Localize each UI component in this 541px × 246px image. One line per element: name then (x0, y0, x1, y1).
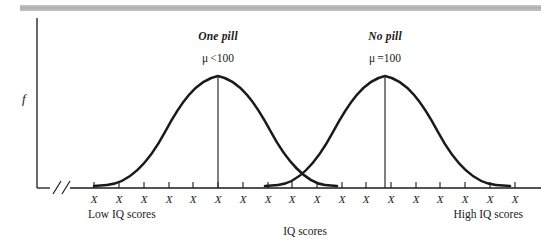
x-tick-label: X (462, 194, 469, 205)
x-tick-label: X (190, 194, 197, 205)
y-axis-label: f (22, 92, 26, 105)
curve-title-one-pill: One pill (198, 31, 238, 43)
x-tick-label: X (388, 194, 395, 205)
x-axis-title: IQ scores (283, 226, 327, 238)
x-tick-label: X (215, 194, 222, 205)
x-axis-high-label: High IQ scores (453, 209, 523, 221)
x-tick-label: X (166, 194, 173, 205)
x-tick-label: X (265, 194, 272, 205)
x-tick-label: X (240, 194, 247, 205)
x-tick-label: X (91, 194, 98, 205)
curve-title-no-pill: No pill (368, 31, 402, 43)
axis-break-mark (53, 181, 61, 194)
x-tick-label: X (437, 194, 444, 205)
x-tick-label: X (116, 194, 123, 205)
figure-canvas: f One pill μ <100 No pill μ =100 X X X X… (0, 0, 541, 246)
density-curve-no-pill (265, 76, 510, 186)
x-tick-label: X (339, 194, 346, 205)
x-tick-label: X (314, 194, 321, 205)
x-axis-low-label: Low IQ scores (88, 209, 156, 221)
x-tick-label: X (512, 194, 519, 205)
x-tick-marks (94, 182, 515, 188)
x-tick-label: X (363, 194, 370, 205)
x-tick-label: X (487, 194, 494, 205)
x-tick-label: X (141, 194, 148, 205)
x-tick-label: X (413, 194, 420, 205)
density-curve-one-pill (94, 76, 337, 186)
x-tick-label: X (289, 194, 296, 205)
axis-break-mark (62, 181, 70, 194)
curve-mean-label-one-pill: μ <100 (202, 53, 234, 65)
curve-mean-label-no-pill: μ =100 (369, 53, 401, 65)
